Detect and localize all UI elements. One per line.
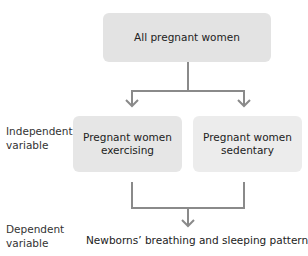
exercising-line2: exercising xyxy=(83,144,172,157)
dependent-variable-label: Dependent variable xyxy=(6,222,64,250)
all-pregnant-women-box: All pregnant women xyxy=(103,13,271,62)
outcome-text: Newborns’ breathing and sleeping pattern… xyxy=(86,233,308,247)
dependent-label-line1: Dependent xyxy=(6,222,64,236)
independent-label-line1: Independent xyxy=(6,124,73,138)
dependent-label-line2: variable xyxy=(6,236,64,250)
top-box-label: All pregnant women xyxy=(134,31,240,44)
exercising-line1: Pregnant women xyxy=(83,131,172,144)
sedentary-line1: Pregnant women xyxy=(203,131,292,144)
independent-label-line2: variable xyxy=(6,138,73,152)
independent-variable-label: Independent variable xyxy=(6,124,73,152)
sedentary-line2: sedentary xyxy=(203,144,292,157)
exercising-group-box: Pregnant women exercising xyxy=(73,116,182,172)
sedentary-group-box: Pregnant women sedentary xyxy=(193,116,302,172)
